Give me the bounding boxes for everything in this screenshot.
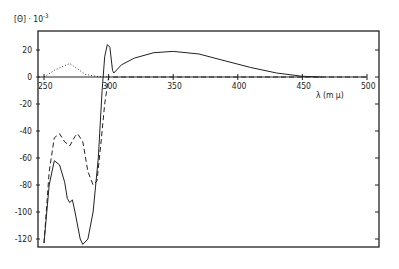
y-ticks: 200-20-40-60-80-100-120 bbox=[15, 45, 40, 244]
x-tick-label: 500 bbox=[361, 81, 376, 91]
series-dotted bbox=[44, 64, 109, 78]
y-tick-label: 0 bbox=[27, 72, 32, 82]
y-tick-label: -100 bbox=[15, 207, 32, 217]
y-tick-label: -80 bbox=[20, 180, 33, 190]
series-dashed bbox=[44, 77, 367, 243]
series-group bbox=[44, 45, 367, 245]
y-tick-label: -40 bbox=[20, 126, 33, 136]
x-axis-title: λ (m μ) bbox=[316, 90, 344, 100]
cd-spectrum-chart: 250300350400450500 200-20-40-60-80-100-1… bbox=[0, 0, 399, 269]
x-tick-label: 450 bbox=[296, 81, 311, 91]
x-tick-label: 300 bbox=[103, 81, 118, 91]
y-tick-label: -20 bbox=[20, 99, 33, 109]
y-tick-label: 20 bbox=[22, 45, 32, 55]
x-tick-label: 250 bbox=[38, 81, 53, 91]
x-tick-label: 400 bbox=[232, 81, 247, 91]
y-axis-title: [Θ] · 10-3 bbox=[14, 12, 48, 24]
y-tick-label: -120 bbox=[15, 234, 32, 244]
y-tick-label: -60 bbox=[20, 153, 33, 163]
plot-frame bbox=[38, 31, 379, 247]
x-tick-label: 350 bbox=[167, 81, 182, 91]
